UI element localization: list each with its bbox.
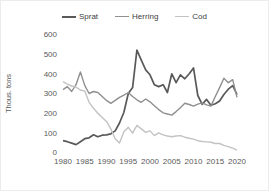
chart-frame: SpratHerringCod Thous. tons 010020030040… <box>0 0 269 191</box>
y-tick-label: 500 <box>44 50 58 59</box>
series-line-cod <box>63 82 237 150</box>
x-tick-label: 2015 <box>206 157 224 166</box>
y-tick-label: 300 <box>44 89 58 98</box>
x-tick-label: 1990 <box>98 157 116 166</box>
x-tick-label: 1995 <box>119 157 137 166</box>
x-tick-label: 1985 <box>76 157 94 166</box>
x-tick-label: 2005 <box>163 157 181 166</box>
x-tick-label: 2020 <box>228 157 246 166</box>
series-line-herring <box>63 72 237 115</box>
x-tick-label: 2010 <box>185 157 203 166</box>
y-tick-label: 400 <box>44 70 58 79</box>
x-tick-label: 2000 <box>141 157 159 166</box>
y-tick-label: 100 <box>44 129 58 138</box>
plot-area: 0100200300400500600198019851990199520002… <box>1 1 268 190</box>
x-tick-label: 1980 <box>54 157 72 166</box>
y-tick-label: 600 <box>44 30 58 39</box>
y-tick-label: 200 <box>44 109 58 118</box>
